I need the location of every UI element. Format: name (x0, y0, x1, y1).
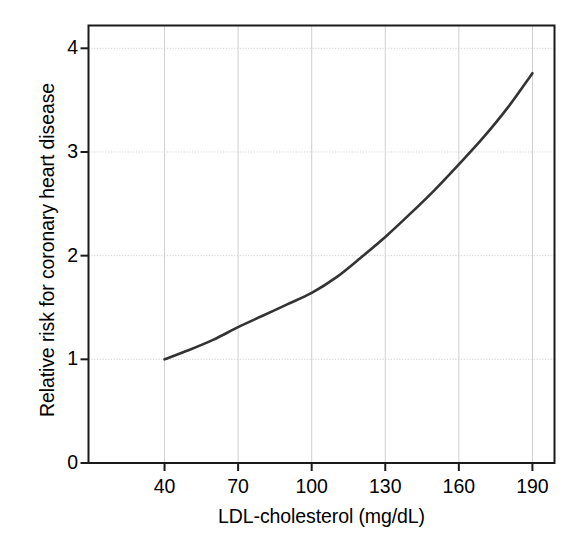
vertical-gridlines (165, 26, 533, 464)
data-line (165, 73, 533, 359)
plot-area (0, 0, 581, 556)
axis-ticks (81, 48, 533, 471)
plot-frame (89, 26, 555, 464)
data-series-group (165, 73, 533, 359)
chart-figure: Relative risk for coronary heart disease… (0, 0, 581, 556)
horizontal-gridlines (89, 48, 555, 359)
